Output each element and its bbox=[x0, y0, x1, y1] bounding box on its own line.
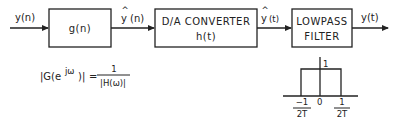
right-cutoff-den: 2T bbox=[337, 109, 348, 119]
svg-text:=: = bbox=[89, 71, 97, 82]
signal-yhat-n: y ^ (n) bbox=[121, 5, 144, 24]
signal-reconstruction-diagram: y(n) g(n) y ^ (n) D/A CONVERTER h(t) y ^… bbox=[0, 0, 395, 122]
left-cutoff-den: 2T bbox=[297, 109, 308, 119]
svg-text:|G(e: |G(e bbox=[40, 71, 61, 83]
signal-yhat-t: y ^ (t) bbox=[261, 5, 279, 24]
gain-formula: |G(e jω )| = 1 |H(ω)| bbox=[40, 64, 130, 88]
input-label: y(n) bbox=[15, 12, 35, 23]
peak-label: 1 bbox=[323, 59, 328, 69]
passband-rect bbox=[301, 69, 341, 96]
block-lpf-label-1: LOWPASS bbox=[296, 16, 347, 27]
right-cutoff-num: 1 bbox=[339, 97, 344, 107]
svg-text:|H(ω)|: |H(ω)| bbox=[100, 78, 126, 88]
svg-text:(t): (t) bbox=[269, 14, 279, 24]
svg-text:(n): (n) bbox=[130, 13, 144, 24]
svg-text:jω: jω bbox=[64, 66, 74, 76]
svg-text:^: ^ bbox=[262, 5, 269, 15]
svg-text:^: ^ bbox=[122, 5, 129, 15]
block-g-label: g(n) bbox=[69, 23, 92, 34]
output-label: y(t) bbox=[361, 12, 379, 23]
block-dac-label-1: D/A CONVERTER bbox=[162, 16, 251, 27]
svg-text:1: 1 bbox=[111, 64, 116, 74]
svg-text:)|: )| bbox=[78, 71, 85, 83]
origin-label: 0 bbox=[317, 97, 322, 107]
lowpass-frequency-response: 1 0 −1 2T 1 2T bbox=[283, 57, 358, 119]
block-lpf-label-2: FILTER bbox=[304, 31, 339, 42]
left-cutoff-num: −1 bbox=[296, 97, 309, 107]
block-dac-label-2: h(t) bbox=[196, 31, 216, 42]
